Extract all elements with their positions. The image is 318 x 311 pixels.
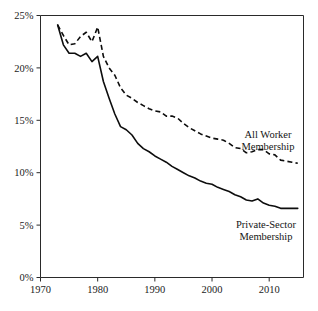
data-series-group bbox=[58, 25, 298, 208]
y-tick-label: 10% bbox=[14, 167, 34, 178]
x-tick-label: 1980 bbox=[87, 284, 108, 295]
union-membership-chart: 0%5%10%15%20%25% 19701980199020002010 Al… bbox=[0, 0, 318, 311]
all-worker-label-line1: All Worker bbox=[244, 129, 292, 140]
chart-canvas: 0%5%10%15%20%25% 19701980199020002010 Al… bbox=[0, 0, 318, 311]
y-tick-label: 20% bbox=[14, 63, 34, 74]
x-tick-label: 1990 bbox=[144, 284, 165, 295]
y-axis-tick-labels: 0%5%10%15%20%25% bbox=[14, 10, 34, 283]
x-axis-tick-labels: 19701980199020002010 bbox=[30, 284, 280, 295]
private-sector-label-line1: Private-Sector bbox=[236, 219, 297, 230]
x-tick-label: 1970 bbox=[30, 284, 51, 295]
y-tick-label: 5% bbox=[20, 220, 34, 231]
y-tick-label: 0% bbox=[20, 272, 34, 283]
y-tick-label: 15% bbox=[14, 115, 34, 126]
x-tick-label: 2010 bbox=[259, 284, 280, 295]
x-tick-label: 2000 bbox=[202, 284, 223, 295]
all-worker-label-line2: Membership bbox=[241, 141, 294, 152]
x-axis-ticks bbox=[41, 278, 270, 282]
y-axis-ticks bbox=[37, 16, 41, 278]
series-annotations: All Worker Membership Private-Sector Mem… bbox=[236, 129, 297, 242]
private-sector-label-line2: Membership bbox=[239, 231, 292, 242]
y-tick-label: 25% bbox=[14, 10, 34, 21]
private-sector-membership-line bbox=[58, 25, 298, 208]
